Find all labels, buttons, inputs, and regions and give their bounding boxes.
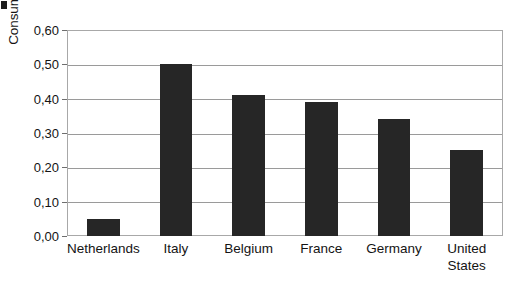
y-axis-tick-label: 0,20 xyxy=(19,160,59,175)
plot-area xyxy=(67,30,503,236)
x-axis-category-labels: NetherlandsItalyBelgiumFranceGermanyUnit… xyxy=(67,240,503,285)
x-axis-label-line: Netherlands xyxy=(67,240,140,257)
gridline xyxy=(68,65,502,66)
x-axis-label-united-states: UnitedStates xyxy=(430,240,503,274)
y-axis-tick-label: 0,40 xyxy=(19,91,59,106)
y-axis-tick-label: 0,10 xyxy=(19,194,59,209)
y-axis-tick-label: 0,30 xyxy=(19,126,59,141)
bar-chart-figure: Consumption bottled water (l/p/d) 0,000,… xyxy=(0,0,516,285)
x-axis-label-line: France xyxy=(285,240,358,257)
x-axis-label-italy: Italy xyxy=(140,240,213,257)
x-axis-label-line: States xyxy=(430,257,503,274)
x-axis-label-line: Germany xyxy=(358,240,431,257)
y-axis-tick-label: 0,00 xyxy=(19,229,59,244)
y-axis-tick xyxy=(62,236,67,237)
x-axis-label-line: United xyxy=(430,240,503,257)
gridline xyxy=(68,168,502,169)
x-axis-label-netherlands: Netherlands xyxy=(67,240,140,257)
y-axis-tick-label: 0,50 xyxy=(19,57,59,72)
gridline xyxy=(68,134,502,135)
x-axis-label-line: Belgium xyxy=(212,240,285,257)
x-axis-label-line: Italy xyxy=(140,240,213,257)
x-axis-label-france: France xyxy=(285,240,358,257)
gridline xyxy=(68,99,502,100)
gridline xyxy=(68,202,502,203)
x-axis-label-germany: Germany xyxy=(358,240,431,257)
x-axis-label-belgium: Belgium xyxy=(212,240,285,257)
y-axis-tick-label: 0,60 xyxy=(19,23,59,38)
